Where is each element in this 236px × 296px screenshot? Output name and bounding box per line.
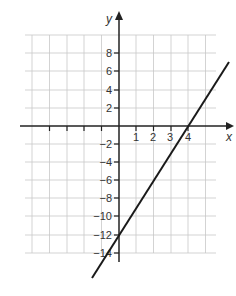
- y-axis-arrow-icon: [115, 11, 123, 20]
- x-tick-label: 4: [185, 131, 191, 143]
- coordinate-plane: y x 1 2 3 4 8 6 4 2 −2 −4 −6 −8 −10 −12 …: [0, 0, 236, 296]
- x-axis-arrow-icon: [226, 122, 234, 130]
- y-tick-label: 6: [106, 65, 112, 77]
- y-tick-label: −4: [99, 156, 112, 168]
- grid: [25, 35, 216, 253]
- y-tick-label: −6: [99, 174, 112, 186]
- y-tick-label: −2: [99, 138, 112, 150]
- plot-line: [92, 62, 229, 278]
- y-tick-label: −8: [99, 192, 112, 204]
- x-tick-label: 1: [133, 131, 139, 143]
- x-axis-label: x: [225, 130, 233, 144]
- y-tick-label: −14: [93, 247, 112, 259]
- x-tick-label: 3: [167, 131, 173, 143]
- y-tick-label: −12: [93, 229, 112, 241]
- y-tick-label: −10: [93, 210, 112, 222]
- y-tick-label: 2: [106, 102, 112, 114]
- y-axis-label: y: [105, 12, 113, 26]
- y-tick-label: 4: [106, 84, 112, 96]
- x-tick-label: 2: [150, 131, 156, 143]
- y-tick-label: 8: [106, 47, 112, 59]
